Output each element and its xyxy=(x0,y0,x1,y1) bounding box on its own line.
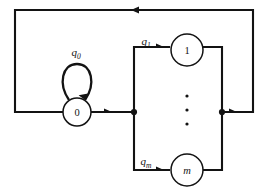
arrowhead-into-state-m xyxy=(156,166,164,173)
state-diagram-canvas: 0 1 m q0 q1 qm xyxy=(0,0,268,188)
arrowhead-feedback-top xyxy=(131,6,139,13)
edge-label-qm-subscript: m xyxy=(146,161,152,170)
state-label-one: 1 xyxy=(184,45,189,56)
edge-m-to-junction-right xyxy=(203,112,222,170)
state-label-zero: 0 xyxy=(74,107,79,118)
edge-label-qm: qm xyxy=(141,155,153,170)
edge-label-q0: q0 xyxy=(71,46,81,61)
arrowhead-into-state-one xyxy=(156,43,164,50)
edge-junction-to-m xyxy=(134,112,170,170)
junction-dot-left xyxy=(131,109,137,115)
edge-label-q1-subscript: 1 xyxy=(147,41,151,50)
arrowhead-zero-exit xyxy=(104,108,112,115)
ellipsis-dot-2 xyxy=(185,108,188,111)
edge-label-q0-subscript: 0 xyxy=(77,52,81,61)
ellipsis-dot-3 xyxy=(185,122,188,125)
edge-junction-to-one xyxy=(134,47,170,112)
edge-one-to-junction-right xyxy=(203,47,222,112)
arrowhead-feedback-exit xyxy=(229,108,237,115)
junction-dot-right xyxy=(219,109,225,115)
ellipsis-dot-1 xyxy=(185,94,188,97)
state-label-m: m xyxy=(183,165,191,176)
state-diagram-figure: 0 1 m q0 q1 qm xyxy=(0,0,268,188)
